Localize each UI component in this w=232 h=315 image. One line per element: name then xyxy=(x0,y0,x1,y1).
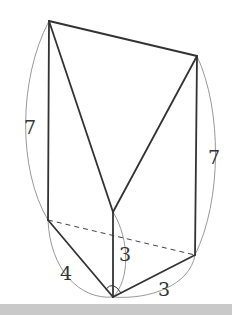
label-middle-height: 3 xyxy=(119,243,131,265)
left-diagonal-edge xyxy=(49,21,113,212)
bottom-strip xyxy=(0,304,232,315)
right-vertical-edge xyxy=(195,56,197,255)
label-base-right: 3 xyxy=(158,278,170,300)
label-right-height: 7 xyxy=(208,146,220,168)
label-base-left: 4 xyxy=(60,262,72,284)
prism-diagram: 7 7 3 4 3 xyxy=(0,0,232,315)
top-edge xyxy=(49,21,197,56)
left-vertical-edge xyxy=(48,21,49,220)
right-diagonal-edge xyxy=(113,56,197,212)
label-left-height: 7 xyxy=(24,116,36,138)
base-left-edge xyxy=(48,220,113,297)
